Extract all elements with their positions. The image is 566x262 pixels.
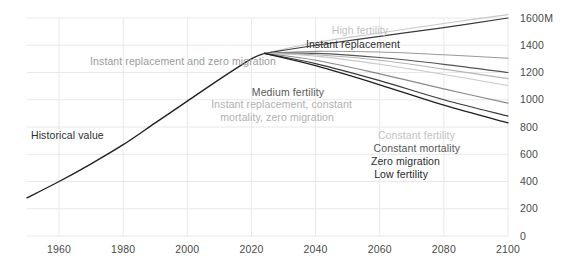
annotation-high-fertility: High fertility: [332, 24, 389, 36]
x-axis-tick-label: 2060: [368, 243, 392, 255]
annotation-instant-replacement: Instant replacement: [306, 38, 400, 50]
x-axis-tick-label: 2020: [239, 243, 263, 255]
y-axis-tick-label: 1000: [520, 93, 544, 105]
x-axis-tick-label: 2080: [432, 243, 456, 255]
x-axis-tick-label: 2100: [496, 243, 520, 255]
annotation-zero-migration: Zero migration: [371, 155, 440, 167]
annotation-instant-repl-const-1: Instant replacement, constant: [211, 98, 352, 110]
y-axis-ticks: 02004006008001000120014001600M: [520, 12, 553, 242]
series-line: [27, 53, 264, 197]
y-axis-tick-label: 1200: [520, 66, 544, 78]
chart-canvas: 02004006008001000120014001600M 196019802…: [0, 0, 566, 262]
y-axis-tick-label: 1400: [520, 39, 544, 51]
annotation-historical-value: Historical value: [31, 129, 104, 141]
y-axis-tick-label: 1600M: [520, 12, 553, 24]
y-axis-tick-label: 600: [520, 148, 538, 160]
x-axis-tick-label: 2040: [304, 243, 328, 255]
annotation-instant-repl-zero-mig: Instant replacement and zero migration: [90, 55, 276, 67]
annotation-constant-fertility: Constant fertility: [378, 129, 456, 141]
y-axis-tick-label: 400: [520, 175, 538, 187]
population-projection-chart: 02004006008001000120014001600M 196019802…: [0, 0, 566, 262]
annotation-constant-mortality: Constant mortality: [374, 142, 461, 154]
x-axis-tick-label: 1960: [47, 243, 71, 255]
x-axis-ticks: 19601980200020202040206020802100: [47, 243, 520, 255]
annotation-instant-repl-const-2: mortality, zero migration: [220, 111, 334, 123]
y-axis-tick-label: 200: [520, 202, 538, 214]
series-annotations: High fertilityInstant replacementInstant…: [31, 24, 461, 180]
y-axis-tick-label: 800: [520, 121, 538, 133]
annotation-low-fertility: Low fertility: [374, 168, 428, 180]
annotation-medium-fertility: Medium fertility: [252, 86, 325, 98]
gridlines: [27, 18, 508, 236]
x-axis-tick-label: 2000: [175, 243, 199, 255]
x-axis-tick-label: 1980: [111, 243, 135, 255]
y-axis-tick-label: 0: [520, 230, 526, 242]
